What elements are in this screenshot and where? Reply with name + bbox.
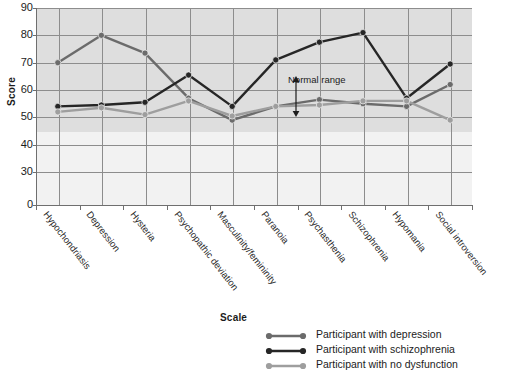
- y-tick-label-30: 30: [1, 165, 33, 177]
- gridline-v-5: [277, 8, 278, 205]
- gridline-v-3: [190, 8, 191, 205]
- y-tick-label-0: 0: [1, 198, 33, 210]
- x-tick-10: [472, 205, 473, 210]
- y-tick-label-90: 90: [1, 1, 33, 13]
- gridline-v-6: [320, 8, 321, 205]
- gridline-v-2: [146, 8, 147, 205]
- legend-label-0: Participant with depression: [316, 328, 441, 340]
- x-axis-label-8: Hypomania: [390, 209, 428, 254]
- gridline-v-0: [59, 8, 60, 205]
- x-axis-label-0: Hypochondriasis: [41, 209, 93, 271]
- y-tick-label-60: 60: [1, 83, 33, 95]
- plot-area: [36, 8, 472, 205]
- x-tick-3: [167, 205, 168, 210]
- x-tick-9: [428, 205, 429, 210]
- x-axis-label-5: Paranoia: [259, 209, 291, 246]
- x-tick-1: [80, 205, 81, 210]
- legend-swatch-1: [264, 343, 308, 355]
- y-tick-label-40: 40: [1, 138, 33, 150]
- legend-title: Scale: [220, 312, 515, 323]
- normal-range-label: Normal range: [288, 74, 346, 85]
- legend-rows: Participant with depressionParticipant w…: [220, 326, 515, 370]
- y-tick-label-50: 50: [1, 110, 33, 122]
- legend-swatch-2: [264, 358, 308, 370]
- gridline-v-9: [451, 8, 452, 205]
- x-tick-0: [36, 205, 37, 210]
- legend-swatch-0: [264, 328, 308, 340]
- y-tick-label-80: 80: [1, 28, 33, 40]
- x-tick-5: [254, 205, 255, 210]
- x-axis-label-2: Hysteria: [128, 209, 158, 243]
- y-tick-label-70: 70: [1, 56, 33, 68]
- x-tick-2: [123, 205, 124, 210]
- x-axis-label-7: Schizophrenia: [346, 209, 392, 263]
- legend-item-1: Participant with schizophrenia: [220, 341, 515, 356]
- legend-item-2: Participant with no dysfunction: [220, 356, 515, 370]
- x-axis-label-1: Depression: [85, 209, 123, 254]
- y-axis-tick-labels: 908070605040300: [0, 0, 33, 215]
- gridline-v-1: [102, 8, 103, 205]
- x-tick-4: [210, 205, 211, 210]
- x-tick-7: [341, 205, 342, 210]
- legend-item-0: Participant with depression: [220, 326, 515, 341]
- gridline-v-8: [408, 8, 409, 205]
- gridline-v-7: [364, 8, 365, 205]
- gridline-v-4: [233, 8, 234, 205]
- legend-label-1: Participant with schizophrenia: [316, 343, 455, 355]
- chart-legend: Scale Participant with depressionPartici…: [220, 312, 515, 370]
- x-axis-label-9: Social introversion: [434, 209, 490, 277]
- x-tick-6: [298, 205, 299, 210]
- x-tick-8: [385, 205, 386, 210]
- x-axis-label-6: Psychasthenia: [303, 209, 350, 264]
- legend-label-2: Participant with no dysfunction: [316, 358, 458, 370]
